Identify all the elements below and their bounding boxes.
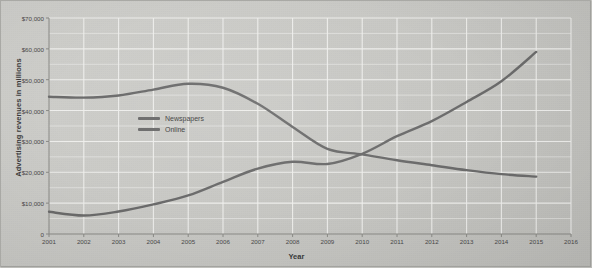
y-tick-label: $50,000 [1, 76, 44, 83]
horizontal-minor-gridlines [49, 33, 571, 218]
x-tick-label: 2010 [355, 238, 369, 245]
y-tick-label: $20,000 [1, 169, 44, 176]
x-tick-label: 2014 [495, 238, 509, 245]
legend-swatch-icon [138, 128, 160, 131]
x-tick-label: 2007 [251, 238, 265, 245]
x-tick-label: 2009 [321, 238, 335, 245]
y-tick-label: $70,000 [1, 15, 44, 22]
horizontal-major-gridlines [49, 18, 571, 203]
x-tick-label: 2012 [425, 238, 439, 245]
x-tick-label: 2003 [112, 238, 126, 245]
x-tick-label: 2015 [529, 238, 543, 245]
x-tick-label: 2002 [77, 238, 91, 245]
y-tick-label: $40,000 [1, 107, 44, 114]
y-axis-title: Advertising revenues in millions [14, 43, 23, 193]
x-tick-label: 2005 [181, 238, 195, 245]
legend-item[interactable]: Online [138, 124, 204, 135]
chart-legend: NewspapersOnline [138, 113, 204, 135]
x-tick-label: 2006 [216, 238, 230, 245]
legend-item-label: Newspapers [165, 115, 204, 122]
x-axis-title: Year [1, 252, 592, 261]
x-tick-label: 2011 [390, 238, 403, 245]
x-tick-label: 2004 [147, 238, 161, 245]
y-tick-label: $60,000 [1, 45, 44, 52]
x-tick-label: 2016 [564, 238, 578, 245]
plot-area [1, 1, 592, 268]
legend-swatch-icon [138, 117, 160, 120]
x-tick-label: 2013 [460, 238, 474, 245]
y-tick-label: 0 [1, 231, 44, 238]
x-tick-label: 2001 [42, 238, 56, 245]
axis-tick-marks [46, 18, 571, 237]
y-tick-label: $10,000 [1, 200, 44, 207]
x-tick-label: 2008 [286, 238, 300, 245]
legend-item[interactable]: Newspapers [138, 113, 204, 124]
y-tick-label: $30,000 [1, 138, 44, 145]
legend-item-label: Online [165, 126, 185, 133]
